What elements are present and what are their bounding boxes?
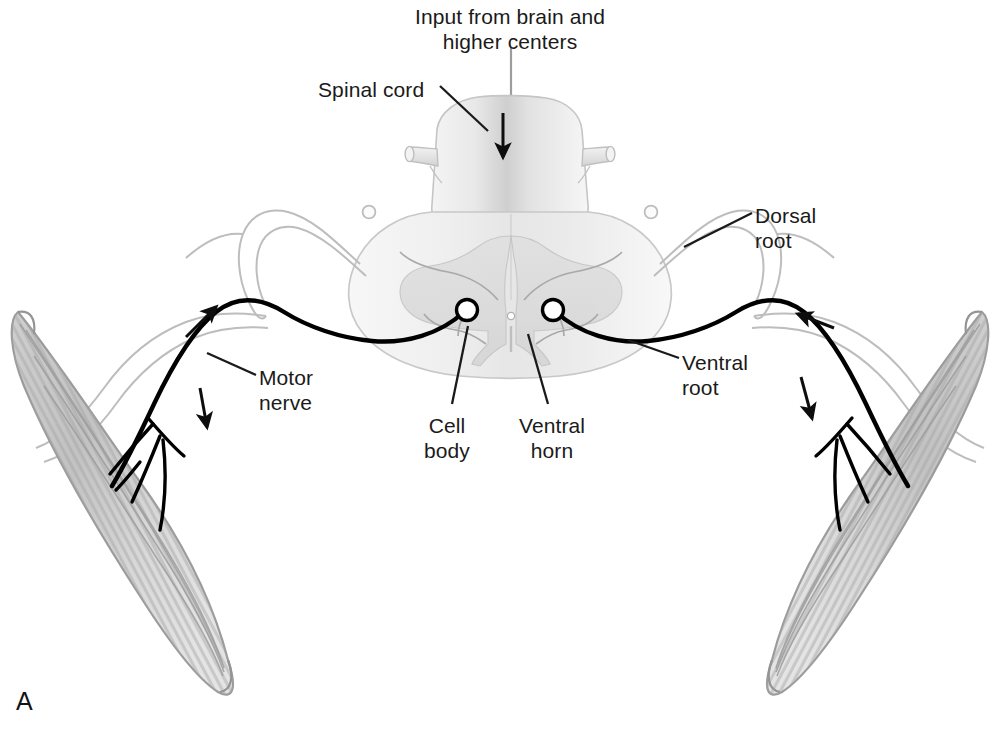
motor-neuron-cell-body-left bbox=[457, 300, 478, 321]
panel-letter-a: A bbox=[16, 688, 33, 715]
label-ventral-root: Ventral root bbox=[682, 350, 748, 400]
label-input-from-brain: Input from brain and higher centers bbox=[415, 4, 605, 54]
skeletal-muscle-left bbox=[0, 290, 260, 710]
label-motor-nerve: Motor nerve bbox=[259, 365, 313, 415]
label-dorsal-root: Dorsal root bbox=[755, 203, 816, 253]
motor-neuron-cell-body-right bbox=[543, 300, 564, 321]
leader-motor-nerve bbox=[207, 353, 256, 375]
figure-container: Input from brain and higher centers Spin… bbox=[0, 0, 1000, 729]
label-cell-body: Cell body bbox=[424, 413, 470, 463]
arrow-right-efferent-down bbox=[801, 377, 812, 418]
label-spinal-cord: Spinal cord bbox=[318, 77, 424, 102]
reflex-arc-illustration bbox=[0, 0, 1000, 729]
arrow-left-efferent-down bbox=[200, 388, 207, 427]
spinal-cord-cross-section bbox=[349, 96, 672, 379]
skeletal-muscle-right bbox=[740, 290, 1000, 710]
label-ventral-horn: Ventral horn bbox=[519, 413, 585, 463]
central-canal bbox=[507, 312, 514, 319]
